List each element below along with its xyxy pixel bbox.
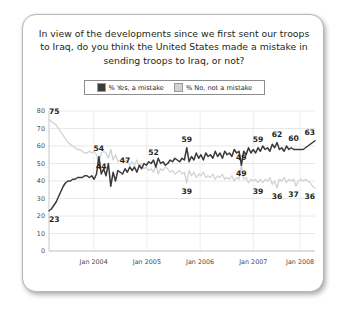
y-axis-tick: 40 [37, 177, 45, 185]
y-axis-tick: 50 [37, 160, 45, 168]
y-axis-tick: 60 [37, 142, 45, 150]
legend-label-no-not-a-mistake: % No, not a mistake [186, 84, 253, 92]
screenshot-root: In view of the developments since we fir… [0, 0, 347, 312]
chart-title: In view of the developments since we fir… [37, 27, 311, 67]
line-chart: 01020304050607080Jan 2004Jan 2005Jan 200… [23, 101, 323, 291]
x-axis-tick: Jan 2006 [185, 258, 214, 266]
x-axis-tick: Jan 2008 [285, 258, 314, 266]
data-label: 23 [49, 215, 60, 224]
data-label: 52 [148, 148, 159, 157]
data-label: 49 [236, 153, 247, 162]
data-label: 36 [304, 192, 315, 201]
x-axis-tick: Jan 2007 [238, 258, 267, 266]
legend-item-yes-a-mistake[interactable]: % Yes, a mistake [97, 83, 164, 92]
x-axis-tick: Jan 2004 [79, 258, 108, 266]
data-label: 39 [181, 187, 192, 196]
x-axis-tick: Jan 2005 [132, 258, 161, 266]
data-label: 39 [253, 187, 264, 196]
legend-item-no-not-a-mistake[interactable]: % No, not a mistake [174, 83, 253, 92]
legend-swatch-no-not-a-mistake [174, 83, 183, 92]
data-label: 59 [253, 135, 264, 144]
data-label: 54 [94, 144, 105, 153]
plot-area: 01020304050607080Jan 2004Jan 2005Jan 200… [23, 101, 323, 291]
chart-card: In view of the developments since we fir… [22, 14, 324, 292]
legend-label-yes-a-mistake: % Yes, a mistake [109, 84, 164, 92]
chart-legend: % Yes, a mistake % No, not a mistake [84, 80, 265, 95]
y-axis-tick: 0 [41, 247, 45, 255]
y-axis-tick: 80 [37, 107, 45, 115]
data-label: 60 [288, 134, 299, 143]
data-label: 63 [304, 128, 315, 137]
data-label: 75 [49, 107, 60, 116]
data-label: 62 [272, 130, 283, 139]
data-label: 36 [272, 192, 283, 201]
y-axis-tick: 30 [37, 195, 45, 203]
data-label: 59 [181, 135, 192, 144]
y-axis-tick: 70 [37, 125, 45, 133]
data-label: 37 [288, 190, 299, 199]
y-axis-tick: 20 [37, 212, 45, 220]
data-label: 47 [120, 156, 131, 165]
data-label: 44 [96, 162, 107, 171]
y-axis-tick: 10 [37, 230, 45, 238]
legend-swatch-yes-a-mistake [97, 83, 106, 92]
data-label: 49 [236, 169, 247, 178]
